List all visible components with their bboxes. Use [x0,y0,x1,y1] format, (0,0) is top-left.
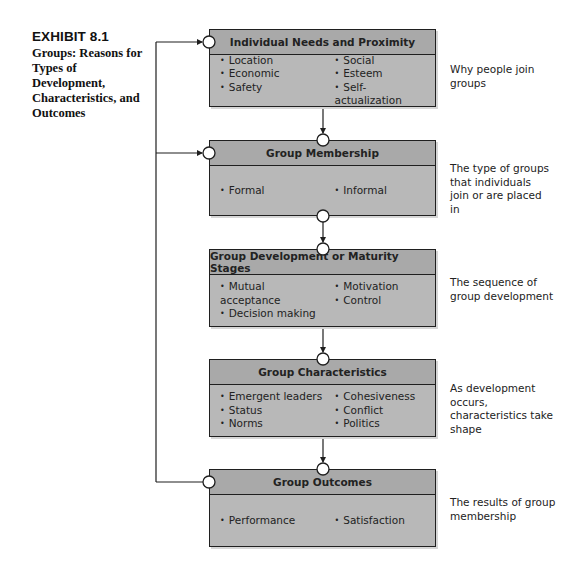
connector-nodes [0,0,582,572]
node-circle-icon [317,463,329,475]
node-circle-icon [203,476,215,488]
node-circle-icon [317,210,329,222]
node-circle-icon [317,353,329,365]
node-circle-icon [203,36,215,48]
node-circle-icon [317,243,329,255]
node-circle-icon [317,134,329,146]
node-circle-icon [203,147,215,159]
